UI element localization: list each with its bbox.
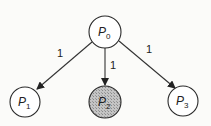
edge-weight-p0-p3: 1 bbox=[146, 43, 152, 55]
node-p1: P1 bbox=[10, 87, 40, 117]
edge-weight-p0-p1: 1 bbox=[57, 47, 63, 59]
process-graph: 1 1 1 P0 P1 P2 P3 bbox=[0, 0, 211, 126]
edge-p0-p1 bbox=[37, 42, 92, 89]
node-p0: P0 bbox=[89, 16, 121, 48]
node-p2: P2 bbox=[89, 86, 121, 118]
edge-weight-p0-p2: 1 bbox=[110, 59, 116, 71]
node-p3: P3 bbox=[168, 86, 198, 116]
